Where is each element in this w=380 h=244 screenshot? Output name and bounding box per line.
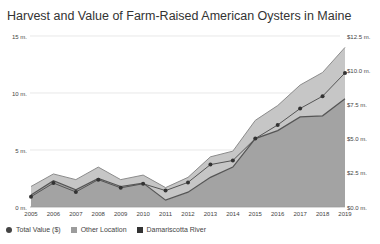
value-marker[interactable] bbox=[298, 107, 302, 111]
value-marker[interactable] bbox=[343, 71, 347, 75]
value-marker[interactable] bbox=[119, 186, 123, 190]
x-tick-label: 2018 bbox=[316, 211, 330, 217]
x-tick-label: 2012 bbox=[181, 211, 195, 217]
x-tick-label: 2019 bbox=[338, 211, 352, 217]
value-marker[interactable] bbox=[276, 123, 280, 127]
y2-tick-label: $12.5 m. bbox=[347, 34, 371, 40]
x-tick-label: 2017 bbox=[293, 211, 307, 217]
legend-item-other-location[interactable]: Other Location bbox=[71, 226, 127, 233]
legend-item-total-value[interactable]: Total Value ($) bbox=[6, 226, 61, 233]
x-tick-label: 2006 bbox=[47, 211, 61, 217]
x-tick-label: 2011 bbox=[159, 211, 173, 217]
value-marker[interactable] bbox=[164, 189, 168, 193]
value-marker[interactable] bbox=[208, 163, 212, 167]
y-tick-label: 0 m. bbox=[15, 205, 27, 211]
x-tick-label: 2016 bbox=[271, 211, 285, 217]
value-marker[interactable] bbox=[321, 94, 325, 98]
x-tick-label: 2009 bbox=[114, 211, 128, 217]
legend-label: Other Location bbox=[81, 226, 127, 233]
y2-tick-label: $10.0 m. bbox=[347, 68, 371, 74]
y2-tick-label: $2.5 m. bbox=[347, 170, 367, 176]
value-marker[interactable] bbox=[51, 181, 55, 185]
value-marker[interactable] bbox=[231, 158, 235, 162]
value-marker[interactable] bbox=[141, 182, 145, 186]
square-swatch-icon bbox=[137, 227, 143, 233]
legend-label: Damariscotta River bbox=[147, 226, 207, 233]
x-tick-label: 2013 bbox=[204, 211, 218, 217]
chart-legend: Total Value ($) Other Location Damarisco… bbox=[6, 226, 206, 233]
y2-tick-label: $0.0 m. bbox=[347, 205, 367, 211]
legend-item-damariscotta-river[interactable]: Damariscotta River bbox=[137, 226, 207, 233]
value-marker[interactable] bbox=[29, 195, 33, 199]
value-marker[interactable] bbox=[74, 190, 78, 194]
y2-tick-label: $5.0 m. bbox=[347, 136, 367, 142]
y-tick-label: 10 m. bbox=[12, 91, 27, 97]
x-tick-label: 2015 bbox=[249, 211, 263, 217]
legend-label: Total Value ($) bbox=[16, 226, 61, 233]
x-tick-label: 2010 bbox=[136, 211, 150, 217]
x-tick-label: 2014 bbox=[226, 211, 240, 217]
square-swatch-icon bbox=[71, 227, 77, 233]
chart-plot: 0 m.5 m.10 m.15 m.$0.0 m.$2.5 m.$5.0 m.$… bbox=[0, 0, 380, 244]
value-marker[interactable] bbox=[253, 137, 257, 141]
x-tick-label: 2005 bbox=[24, 211, 38, 217]
y2-tick-label: $7.5 m. bbox=[347, 102, 367, 108]
y-tick-label: 15 m. bbox=[12, 34, 27, 40]
x-tick-label: 2008 bbox=[92, 211, 106, 217]
value-marker[interactable] bbox=[96, 178, 100, 182]
value-marker[interactable] bbox=[186, 180, 190, 184]
x-tick-label: 2007 bbox=[69, 211, 83, 217]
y-tick-label: 5 m. bbox=[15, 148, 27, 154]
circle-marker-icon bbox=[6, 227, 12, 233]
